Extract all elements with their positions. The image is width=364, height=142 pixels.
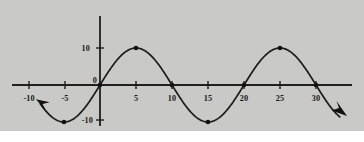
x-tick-label--5: -5 — [61, 94, 68, 103]
data-point-minimum-x-5 — [62, 120, 67, 125]
x-tick-label--10: -10 — [23, 94, 34, 103]
x-tick-labels: -10 -5 5 10 15 20 25 30 — [23, 94, 320, 103]
data-point-zero-crossing-x0 — [98, 83, 103, 88]
data-point-maximum-x25 — [278, 46, 283, 51]
x-tick-label-20: 20 — [240, 94, 248, 103]
sine-graph-svg: -10 -5 5 10 15 20 25 30 10 0 -10 — [0, 0, 364, 142]
data-point-zero-crossing-x20 — [242, 83, 247, 88]
x-tick-label-15: 15 — [204, 94, 212, 103]
graph-figure: -10 -5 5 10 15 20 25 30 10 0 -10 — [0, 0, 364, 142]
data-point-zero-crossing-x30 — [314, 83, 319, 88]
data-point-minimum-x15 — [206, 120, 211, 125]
y-tick-label--10: -10 — [82, 116, 93, 125]
data-point-maximum-x5 — [134, 46, 139, 51]
x-tick-label-5: 5 — [134, 94, 138, 103]
x-tick-label-25: 25 — [276, 94, 284, 103]
x-tick-label-30: 30 — [312, 94, 320, 103]
chart-background — [0, 0, 364, 131]
y-tick-label-10: 10 — [82, 44, 90, 53]
origin-label: 0 — [93, 76, 97, 85]
page-margin-bottom — [0, 131, 364, 142]
x-tick-label-10: 10 — [168, 94, 176, 103]
data-point-zero-crossing-x10 — [170, 83, 175, 88]
